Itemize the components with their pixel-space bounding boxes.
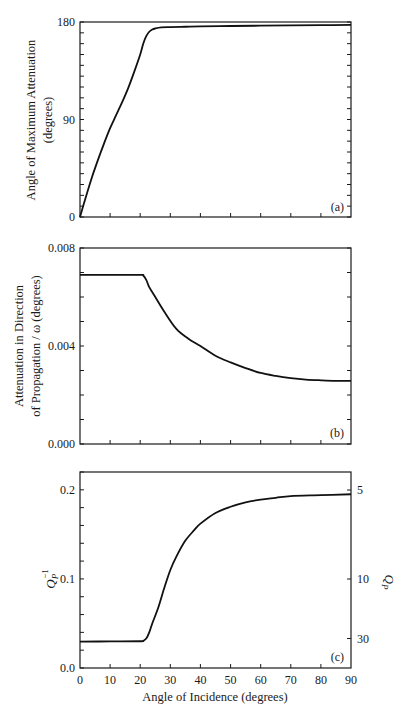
panel-a-ylabel: Angle of Maximum Attenuation (24, 39, 38, 200)
panel-a: 0 90 180 Angle of Maximum Attenuation (d… (24, 15, 351, 224)
panel-c-tag: (c) (331, 650, 344, 664)
panel-c-ylabel-right: QP (380, 575, 397, 590)
panel-c-ylabel-sub: P (50, 573, 60, 580)
xtick-70: 70 (285, 673, 297, 687)
panel-c-y2label-sub: P (380, 583, 390, 590)
panel-b-curve (80, 275, 351, 381)
panel-b-frame (80, 248, 351, 444)
x-tick-labels: 0 10 20 30 40 50 60 70 80 90 (77, 673, 357, 687)
panel-c-ylabel-left: QP−1 (40, 569, 60, 588)
panel-b-ylabel: Attenuation in Direction (12, 284, 26, 407)
xtick-10: 10 (104, 673, 116, 687)
panel-a-ytick-0: 0 (69, 210, 75, 224)
panel-a-x-ticks (110, 213, 321, 217)
panel-c-ytick-00: 0.0 (60, 661, 75, 675)
panel-c-ytick-02: 0.2 (60, 483, 75, 497)
panel-c-y2tick-10: 10 (357, 572, 369, 586)
xtick-0: 0 (77, 673, 83, 687)
xtick-80: 80 (315, 673, 327, 687)
panel-a-curve (80, 25, 351, 217)
svg-text:QP: QP (380, 575, 397, 590)
panel-b-ylabel-line2: of Propagation / ω (degrees) (29, 275, 43, 417)
panel-c-frame (80, 472, 351, 668)
xtick-90: 90 (345, 673, 357, 687)
panel-b-ytick-0000: 0.000 (48, 437, 75, 451)
panel-c-curve (80, 494, 351, 641)
panel-c-y2tick-30: 30 (357, 632, 369, 646)
panel-a-ytick-180: 180 (57, 15, 75, 29)
xtick-40: 40 (194, 673, 206, 687)
panel-a-ytick-90: 90 (63, 113, 75, 127)
xtick-30: 30 (164, 673, 176, 687)
panel-c: 0.0 0.1 0.2 5 10 30 QP−1 QP (c) 0 10 20 … (40, 472, 397, 704)
panel-a-frame (80, 22, 351, 217)
svg-text:QP−1: QP−1 (40, 569, 60, 588)
panel-c-ytick-01: 0.1 (60, 572, 75, 586)
panel-c-y2tick-5: 5 (357, 483, 363, 497)
figure: 0 90 180 Angle of Maximum Attenuation (d… (0, 0, 407, 712)
xtick-20: 20 (134, 673, 146, 687)
xtick-60: 60 (255, 673, 267, 687)
panel-c-ylabel-sup: −1 (40, 569, 50, 579)
x-axis-label: Angle of Incidence (degrees) (142, 690, 287, 704)
panel-b-ytick-0008: 0.008 (48, 241, 75, 255)
panel-a-ylabel-unit: (degrees) (41, 97, 55, 144)
panel-b-x-ticks (110, 440, 321, 444)
panel-b-ytick-0004: 0.004 (48, 339, 75, 353)
xtick-50: 50 (225, 673, 237, 687)
panel-a-tag: (a) (331, 200, 344, 214)
panel-b: 0.000 0.004 0.008 Attenuation in Directi… (12, 241, 351, 451)
panel-b-tag: (b) (330, 426, 344, 440)
